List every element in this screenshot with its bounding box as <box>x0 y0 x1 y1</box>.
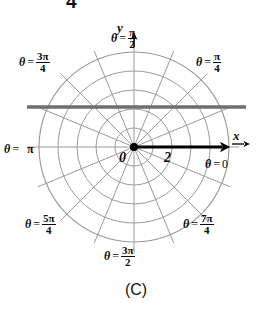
radial-tick-label-2: 2 <box>164 150 171 166</box>
theta-5pi-4-label: θ=5π4 <box>25 214 56 237</box>
angle-fraction: 7π4 <box>200 213 214 236</box>
angle-fraction: π4 <box>213 51 221 74</box>
angle-fraction: π2 <box>128 27 136 50</box>
fraction-denominator: 4 <box>36 63 50 74</box>
angle-value: π <box>21 142 34 156</box>
angle-fraction: 5π4 <box>42 213 56 236</box>
theta-7pi-4-label: θ=7π4 <box>183 214 214 237</box>
fraction-denominator: 2 <box>121 257 135 268</box>
origin-label: 0 <box>119 150 126 166</box>
equals-sign: = <box>31 217 42 231</box>
equals-sign: = <box>202 55 213 69</box>
clipped-top-text: 4 <box>66 0 77 13</box>
terminal-ray <box>134 142 230 152</box>
x-axis-letter: x <box>233 128 240 144</box>
theta-pi-4-label: θ=π4 <box>196 52 221 75</box>
fraction-denominator: 4 <box>200 225 214 236</box>
fraction-denominator: 4 <box>213 63 221 74</box>
equals-sign: = <box>110 249 121 263</box>
fraction-denominator: 2 <box>128 39 136 50</box>
angle-fraction: 3π2 <box>121 245 135 268</box>
theta-3pi-4-label: θ=3π4 <box>19 52 50 75</box>
figure-caption: (C) <box>0 281 272 299</box>
equals-sign: = <box>211 157 222 171</box>
equals-sign: = <box>10 142 21 156</box>
origin-dot <box>130 143 138 151</box>
theta-0-label: θ=0 <box>205 158 228 170</box>
theta-3pi-2-label: θ=3π2 <box>104 246 135 269</box>
theta-pi-2-label: θ=π2 <box>111 28 136 51</box>
fraction-denominator: 4 <box>42 225 56 236</box>
angle-value: 0 <box>222 157 228 171</box>
equals-sign: = <box>25 55 36 69</box>
polar-graph-figure: 4 y x 0 2 θ=0θ=π4θ=π2θ=3π4θ=πθ=5π4θ=3π2θ… <box>0 0 272 309</box>
equals-sign: = <box>117 31 128 45</box>
equals-sign: = <box>189 217 200 231</box>
theta-pi-label: θ=π <box>4 143 34 155</box>
angle-fraction: 3π4 <box>36 51 50 74</box>
